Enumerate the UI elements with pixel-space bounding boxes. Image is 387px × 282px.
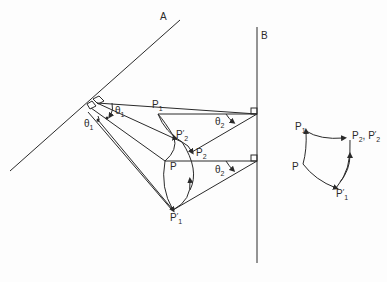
curve-p-to-p1 [165, 137, 175, 161]
inset-curve-up-arrow [340, 155, 350, 182]
label-theta1-b: θ1 [84, 119, 93, 129]
label-p1-prime: P′1 [170, 213, 182, 223]
label-theta1-a: θ1 [115, 106, 124, 116]
inset-label-p: P [292, 162, 299, 172]
label-b: B [261, 31, 268, 41]
inset-curve-p-to-p1 [303, 131, 306, 164]
theta2-arc-b [226, 161, 233, 170]
curve-p2prime-to-p1prime [182, 142, 194, 190]
label-theta2-a: θ2 [215, 117, 224, 127]
diagram-canvas: A B θ1 θ1 θ2 θ2 P1 P P2 P′2 P′1 P1 P P2,… [0, 0, 387, 282]
right-angle-marker-a-2 [87, 101, 96, 109]
inset-curve-p2-down [336, 140, 350, 188]
right-angle-marker-b-bottom [251, 155, 257, 161]
dot-2 [106, 117, 109, 120]
label-p: P [170, 162, 177, 172]
ray-a-to-p2prime [97, 103, 182, 142]
ray-a-perp-2 [88, 112, 172, 210]
inset-curve-p-to-p1prime [303, 164, 336, 188]
label-a: A [160, 12, 167, 22]
curve-p1-upper [158, 114, 174, 137]
diagram-svg [0, 0, 387, 282]
right-angle-marker-b-top [251, 108, 257, 114]
mirror-a-line [10, 20, 180, 171]
label-p2-prime: P′2 [176, 130, 188, 140]
dot-p2 [191, 151, 193, 153]
theta2-arc-a [226, 114, 233, 122]
inset-label-p1-prime: P′1 [336, 189, 348, 199]
ray-a-perp-3 [98, 120, 173, 210]
label-p2: P2 [196, 148, 207, 158]
inset-label-p1: P1 [295, 122, 306, 132]
dot-1 [97, 119, 100, 122]
label-p1: P1 [152, 100, 163, 110]
inset-label-p2-p2prime: P2, P′2 [352, 131, 380, 141]
label-theta2-b: θ2 [215, 165, 224, 175]
inset-curve-p1-to-p2 [306, 131, 344, 138]
ray-a-perp-1 [91, 108, 165, 161]
